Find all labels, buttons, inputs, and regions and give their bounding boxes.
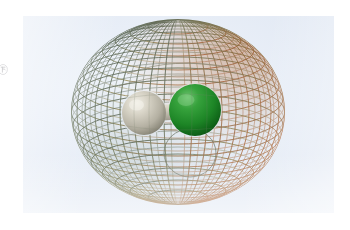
margin-mark-icon xyxy=(0,62,11,75)
molecule-3d-scene xyxy=(23,16,334,213)
molecule-image-panel xyxy=(23,16,334,213)
figure-root xyxy=(0,0,350,230)
